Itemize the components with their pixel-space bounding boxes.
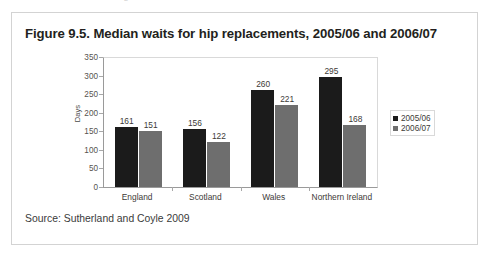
bar — [251, 90, 274, 187]
legend-label: 2005/06 — [401, 114, 431, 123]
bar-value-label: 260 — [246, 79, 280, 89]
figure-title: Figure 9.5. Median waits for hip replace… — [25, 26, 437, 41]
y-axis-tick-label: 250 — [84, 90, 98, 99]
x-axis-tick-mark — [309, 187, 310, 191]
bar-value-label: 295 — [314, 66, 348, 76]
y-axis-tick-label: 200 — [84, 108, 98, 117]
figure-container: Figure 9.5. Median waits for hip replace… — [11, 12, 478, 245]
bar-value-label: 221 — [270, 94, 304, 104]
legend-label: 2006/07 — [401, 124, 431, 133]
bar-value-label: 168 — [338, 114, 372, 124]
bar — [115, 127, 138, 187]
bar-value-label: 122 — [202, 131, 236, 141]
y-axis-tick-label: 350 — [84, 53, 98, 62]
bar — [207, 142, 230, 187]
bar — [139, 131, 162, 187]
y-axis-tick-label: 50 — [89, 164, 98, 173]
y-axis-tick-label: 150 — [84, 127, 98, 136]
scan-top-cutoff-sliver: and the distribution of waiting times — [0, 0, 492, 11]
x-axis-category-label: Northern Ireland — [294, 192, 390, 202]
y-axis-tick-label: 300 — [84, 71, 98, 80]
legend-swatch-icon — [393, 116, 398, 121]
y-axis-tick-label: 100 — [84, 145, 98, 154]
x-axis-tick-mark — [241, 187, 242, 191]
legend-item: 2005/06 — [393, 113, 431, 123]
y-axis-ticks: 350300250200150100500 — [60, 53, 103, 188]
y-axis-tick-label: 0 — [93, 183, 98, 192]
bar-value-label: 156 — [178, 118, 212, 128]
legend-item: 2006/07 — [393, 123, 431, 133]
plot-area: 161151156122260221295168 — [103, 57, 378, 188]
legend-swatch-icon — [393, 126, 398, 131]
x-axis-tick-mark — [172, 187, 173, 191]
bar — [275, 105, 298, 187]
bar-chart: Days 350300250200150100500 1611511561222… — [60, 53, 460, 205]
bar — [319, 77, 342, 187]
bar — [343, 125, 366, 187]
figure-source: Source: Sutherland and Coyle 2009 — [25, 213, 190, 224]
scan-cutoff-text: and the distribution of waiting times — [6, 0, 154, 1]
bar-value-label: 151 — [134, 120, 168, 130]
chart-legend: 2005/062006/07 — [390, 110, 435, 136]
